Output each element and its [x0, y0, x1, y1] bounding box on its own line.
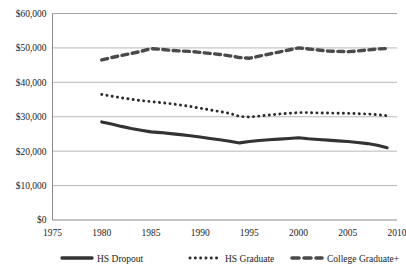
- y-tick-label: $20,000: [16, 147, 47, 157]
- x-axis-tick-labels: 19751980198519901995200020052010: [43, 228, 406, 238]
- gridlines: [53, 14, 398, 186]
- series-line-hs-dropout: [102, 122, 387, 148]
- x-tick-label: 1980: [92, 228, 111, 238]
- y-tick-label: $10,000: [16, 181, 47, 191]
- y-tick-label: $30,000: [16, 112, 47, 122]
- legend-label-hs-graduate: HS Graduate: [225, 254, 274, 264]
- x-tick-label: 1990: [191, 228, 210, 238]
- x-tick-label: 1985: [141, 228, 160, 238]
- x-tick-label: 2005: [338, 228, 357, 238]
- chart-legend: HS DropoutHS GraduateCollege Graduate+: [62, 254, 399, 264]
- y-tick-label: $60,000: [16, 9, 47, 19]
- series-line-hs-graduate: [102, 94, 387, 117]
- legend-label-hs-dropout: HS Dropout: [97, 254, 144, 264]
- x-tick-label: 1995: [240, 228, 259, 238]
- line-chart: $0$10,000$20,000$30,000$40,000$50,000$60…: [0, 0, 406, 271]
- y-tick-label: $0: [37, 215, 47, 225]
- series-line-college-graduate: [102, 48, 387, 60]
- y-tick-label: $50,000: [16, 43, 47, 53]
- y-tick-label: $40,000: [16, 78, 47, 88]
- y-axis-tick-labels: $0$10,000$20,000$30,000$40,000$50,000$60…: [16, 9, 47, 226]
- data-series-layer: [102, 48, 387, 148]
- x-tick-label: 1975: [43, 228, 62, 238]
- x-tick-label: 2010: [388, 228, 406, 238]
- x-tick-label: 2000: [289, 228, 308, 238]
- chart-canvas: $0$10,000$20,000$30,000$40,000$50,000$60…: [0, 0, 406, 271]
- legend-label-college-graduate: College Graduate+: [327, 254, 399, 264]
